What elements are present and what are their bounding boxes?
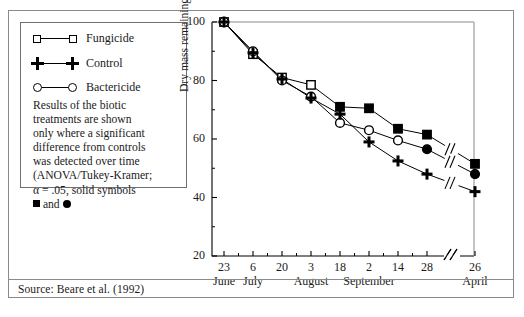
data-point-fungicide — [471, 160, 479, 168]
source-note: Source: Beare et al. (1992) — [18, 283, 144, 295]
y-tick-label: 60 — [179, 131, 205, 146]
data-point-bactericide — [394, 136, 403, 145]
y-tick-label: 100 — [179, 14, 205, 29]
x-tick-label: 26 — [455, 260, 495, 275]
source-divider — [9, 279, 513, 280]
data-point-control — [393, 155, 404, 166]
y-tick-label: 80 — [179, 73, 205, 88]
data-point-fungicide — [307, 81, 315, 89]
data-point-fungicide — [394, 125, 402, 133]
y-tick-label: 20 — [179, 248, 205, 263]
data-point-fungicide — [365, 104, 373, 112]
data-point-bactericide — [365, 126, 374, 135]
y-tick-label: 40 — [179, 190, 205, 205]
data-point-control — [470, 186, 481, 197]
data-point-bactericide — [423, 145, 432, 154]
data-point-bactericide — [471, 170, 480, 179]
x-month-label: September — [339, 274, 399, 289]
x-month-label: April — [445, 274, 505, 289]
x-month-label: July — [223, 274, 283, 289]
figure-root: Fungicide Control Bactericide Results of… — [0, 0, 524, 317]
x-month-label: August — [281, 274, 341, 289]
data-point-bactericide — [336, 119, 345, 128]
data-point-control — [422, 169, 433, 180]
x-tick-label: 28 — [407, 260, 447, 275]
data-point-fungicide — [423, 130, 431, 138]
